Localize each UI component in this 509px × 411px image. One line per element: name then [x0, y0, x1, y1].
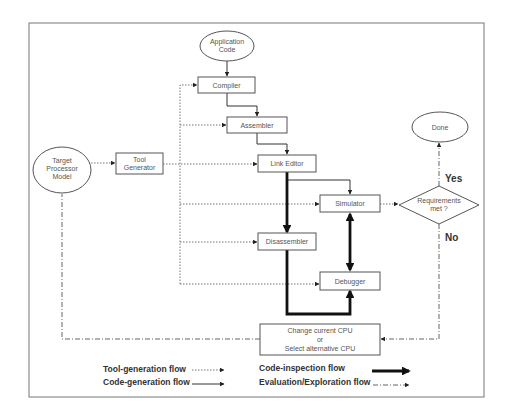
svg-text:Link Editor: Link Editor — [270, 160, 304, 167]
svg-text:met ?: met ? — [430, 205, 448, 212]
svg-text:Debugger: Debugger — [335, 278, 366, 286]
svg-text:Simulator: Simulator — [335, 200, 365, 207]
node-assembler: Assembler — [227, 117, 287, 133]
svg-text:Done: Done — [432, 124, 449, 131]
tool-generation-edges — [91, 85, 398, 284]
legend-tool-generation: Tool-generation flow — [103, 364, 186, 374]
svg-text:Generator: Generator — [124, 164, 156, 171]
legend: Tool-generation flow Code-generation flo… — [103, 363, 409, 387]
yes-label: Yes — [445, 173, 463, 184]
svg-text:Application: Application — [210, 38, 244, 46]
svg-text:Target: Target — [52, 157, 72, 165]
svg-text:Compiler: Compiler — [212, 82, 241, 90]
no-label: No — [445, 232, 458, 243]
svg-text:Select alternative CPU: Select alternative CPU — [285, 345, 355, 352]
svg-text:Requirements: Requirements — [417, 197, 461, 205]
node-change-cpu: Change current CPU or Select alternative… — [260, 324, 380, 355]
node-link-editor: Link Editor — [258, 155, 316, 172]
legend-code-inspection: Code-inspection flow — [259, 363, 345, 373]
node-disassembler: Disassembler — [258, 233, 316, 250]
node-simulator: Simulator — [320, 195, 380, 212]
legend-code-generation: Code-generation flow — [103, 377, 190, 387]
flow-diagram: Application Code Compiler Assembler Link… — [0, 0, 509, 411]
svg-text:Processor: Processor — [46, 165, 78, 172]
svg-text:or: or — [317, 336, 324, 343]
svg-text:Code: Code — [219, 46, 236, 53]
node-application-code: Application Code — [200, 31, 254, 61]
svg-text:Assembler: Assembler — [240, 122, 274, 129]
node-debugger: Debugger — [320, 272, 380, 290]
legend-evaluation-exploration: Evaluation/Exploration flow — [259, 377, 371, 387]
node-target-processor-model: Target Processor Model — [33, 147, 91, 193]
svg-text:Change current CPU: Change current CPU — [288, 327, 353, 335]
node-compiler: Compiler — [198, 77, 255, 93]
svg-text:Tool: Tool — [133, 156, 146, 163]
svg-text:Model: Model — [52, 173, 72, 180]
node-tool-generator: Tool Generator — [116, 153, 163, 174]
node-requirements-met: Requirements met ? — [399, 186, 479, 224]
svg-text:Disassembler: Disassembler — [266, 238, 309, 245]
node-done: Done — [412, 112, 468, 142]
